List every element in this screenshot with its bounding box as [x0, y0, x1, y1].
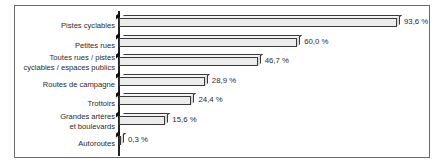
bar-front-face — [119, 18, 397, 27]
bar-row: Grandes artèreset boulevards15,6 % — [0, 111, 445, 131]
bar-row: Pistes cyclables93,6 % — [0, 13, 445, 33]
value-label: 0,3 % — [128, 135, 148, 144]
category-label: et boulevards — [69, 122, 115, 132]
value-label: 93,6 % — [404, 17, 428, 26]
bar-row: Trottoirs24,4 % — [0, 91, 445, 111]
bar-row: Petites rues60,0 % — [0, 33, 445, 53]
category-label: Autoroutes — [78, 139, 115, 149]
category-label: Routes de campagne — [43, 80, 115, 90]
bar-front-face — [119, 116, 165, 125]
value-label: 60,0 % — [304, 37, 328, 46]
bar-side-face — [397, 15, 400, 27]
category-label: Petites rues — [75, 41, 115, 51]
category-label: Trottoirs — [87, 99, 115, 109]
category-label: Pistes cyclables — [61, 21, 115, 31]
bar-side-face — [297, 35, 300, 47]
value-label: 24,4 % — [198, 95, 222, 104]
bar-front-face — [119, 96, 191, 105]
category-label: cyclables / espaces publics — [23, 63, 115, 73]
bar-row: Toutes rues / pistescyclables / espaces … — [0, 52, 445, 72]
bar-side-face — [165, 113, 168, 125]
bar-side-face — [121, 133, 124, 145]
bar-row: Routes de campagne28,9 % — [0, 72, 445, 92]
bar-front-face — [119, 57, 258, 66]
bar-side-face — [258, 54, 261, 66]
bar-front-face — [119, 77, 205, 86]
value-label: 46,7 % — [265, 56, 289, 65]
value-label: 28,9 % — [212, 76, 236, 85]
value-label: 15,6 % — [172, 115, 196, 124]
bar-front-face — [119, 38, 297, 47]
category-label: Toutes rues / pistes — [50, 53, 115, 63]
bar-side-face — [205, 74, 208, 86]
category-label: Grandes artères — [60, 112, 115, 122]
bar-row: Autoroutes0,3 % — [0, 131, 445, 151]
